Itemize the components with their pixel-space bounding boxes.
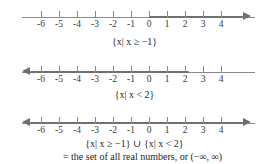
- caption-text-2: {x| x < 2}: [115, 89, 155, 100]
- tick-mark: [59, 66, 60, 73]
- tick-mark: [77, 66, 78, 73]
- tick-mark: [221, 66, 222, 73]
- caption-text-3-result: = the set of all real numbers, or (−∞, ∞…: [63, 151, 222, 162]
- number-line-2: -6-5-4-3-2-101234: [0, 61, 269, 87]
- tick-label: 4: [210, 19, 232, 30]
- left-arrowhead-2: [22, 67, 30, 75]
- tick-mark: [41, 11, 42, 18]
- tick-mark: [167, 11, 168, 18]
- figure-container: -6-5-4-3-2-101234 {x| x ≥ −1} -6-5-4-3-2…: [0, 0, 269, 164]
- tick-mark: [59, 11, 60, 18]
- number-line-1: -6-5-4-3-2-101234: [0, 6, 269, 32]
- tick-mark: [131, 66, 132, 73]
- caption-line-1: {x| x ≥ −1}: [0, 35, 269, 48]
- caption-text-3-union: {x| x ≥ −1} ∪ {x| x < 2}: [85, 138, 183, 149]
- caption-line-3-union: {x| x ≥ −1} ∪ {x| x < 2}: [0, 137, 269, 150]
- right-arrowhead-3: [243, 118, 251, 126]
- caption-text-1: {x| x ≥ −1}: [112, 36, 157, 47]
- tick-mark: [149, 66, 150, 73]
- caption-line-2: {x| x < 2}: [0, 88, 269, 101]
- number-line-3: -6-5-4-3-2-101234: [0, 112, 269, 138]
- tick-mark: [131, 11, 132, 18]
- tick-mark: [113, 117, 114, 124]
- tick-mark: [221, 11, 222, 18]
- tick-mark: [95, 11, 96, 18]
- tick-mark: [95, 66, 96, 73]
- right-arrowhead-1: [243, 12, 251, 20]
- highlight-ray-2: [30, 71, 189, 73]
- tick-mark: [131, 117, 132, 124]
- number-line-block-2: -6-5-4-3-2-101234 {x| x < 2}: [0, 61, 269, 87]
- tick-mark: [185, 66, 186, 73]
- tick-mark: [77, 11, 78, 18]
- number-line-block-1: -6-5-4-3-2-101234 {x| x ≥ −1}: [0, 6, 269, 32]
- caption-line-3-result: = the set of all real numbers, or (−∞, ∞…: [0, 150, 269, 163]
- left-arrowhead-3: [22, 118, 30, 126]
- tick-mark: [77, 117, 78, 124]
- tick-mark: [167, 66, 168, 73]
- tick-mark: [149, 11, 150, 18]
- tick-mark: [113, 66, 114, 73]
- tick-mark: [203, 11, 204, 18]
- tick-mark: [95, 117, 96, 124]
- tick-mark: [185, 11, 186, 18]
- tick-mark: [203, 66, 204, 73]
- tick-mark: [149, 117, 150, 124]
- tick-label: 4: [210, 74, 232, 85]
- tick-mark: [185, 117, 186, 124]
- tick-mark: [167, 117, 168, 124]
- highlight-ray-3: [30, 122, 243, 124]
- tick-mark: [41, 66, 42, 73]
- highlight-ray-1: [149, 16, 243, 18]
- tick-label: 4: [210, 125, 232, 136]
- tick-mark: [59, 117, 60, 124]
- number-line-block-3: -6-5-4-3-2-101234 {x| x ≥ −1} ∪ {x| x < …: [0, 112, 269, 138]
- tick-mark: [113, 11, 114, 18]
- tick-mark: [41, 117, 42, 124]
- tick-mark: [203, 117, 204, 124]
- tick-mark: [221, 117, 222, 124]
